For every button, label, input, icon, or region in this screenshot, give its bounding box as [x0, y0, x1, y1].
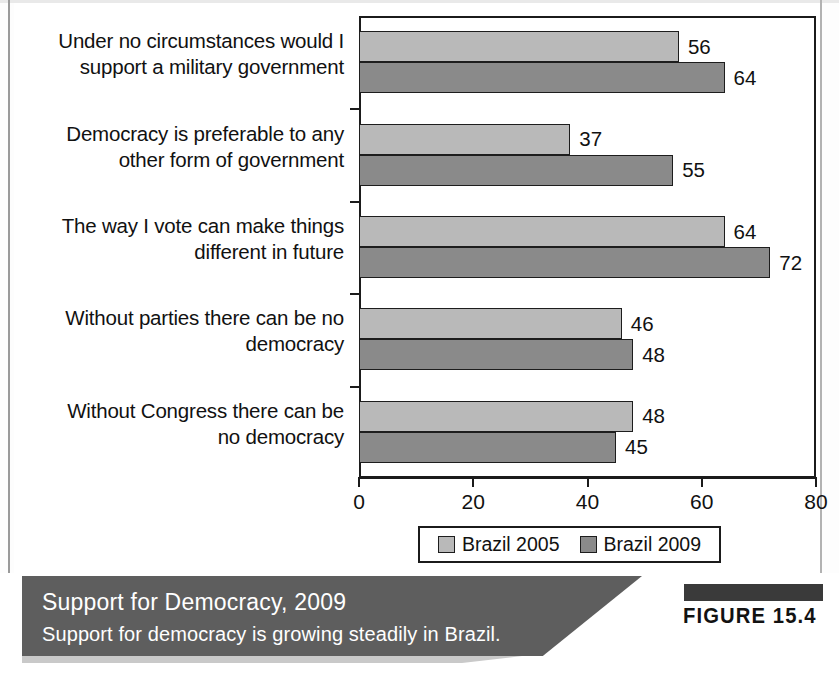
- category-label-line: different in future: [44, 239, 344, 265]
- chart-legend: Brazil 2005 Brazil 2009: [418, 526, 721, 563]
- legend-item-brazil-2005: Brazil 2005: [438, 533, 560, 556]
- category-label: The way I vote can make thingsdifferent …: [44, 213, 344, 265]
- figure-page: Under no circumstances would Isupport a …: [0, 0, 839, 676]
- bar-brazil-2005: [359, 216, 725, 247]
- bar-brazil-2005: [359, 124, 570, 155]
- category-label: Without Congress there can beno democrac…: [44, 398, 344, 450]
- bar-brazil-2009: [359, 432, 616, 463]
- bar-value-label: 48: [642, 406, 665, 426]
- legend-label-brazil-2005: Brazil 2005: [462, 533, 560, 556]
- caption-subtitle: Support for democracy is growing steadil…: [42, 623, 501, 646]
- figure-tag-label: FIGURE 15.4: [683, 603, 817, 629]
- figure-tag-bar: [684, 584, 823, 601]
- bar-value-label: 56: [688, 37, 711, 57]
- category-label-line: other form of government: [44, 147, 344, 173]
- bar-value-label: 64: [734, 68, 757, 88]
- bar-value-label: 37: [579, 129, 602, 149]
- bar-value-label: 64: [734, 222, 757, 242]
- x-axis-tick-label: 0: [353, 490, 365, 514]
- chart-figure-area: Under no circumstances would Isupport a …: [14, 3, 820, 573]
- legend-swatch-icon-brazil-2009: [580, 536, 597, 553]
- legend-swatch-icon-brazil-2005: [438, 536, 455, 553]
- x-axis-tick: [701, 477, 703, 487]
- bar-brazil-2009: [359, 339, 633, 370]
- legend-item-brazil-2009: Brazil 2009: [580, 533, 702, 556]
- x-axis-tick-label: 40: [576, 490, 599, 514]
- page-left-edge-line: [8, 0, 10, 578]
- figure-caption-area: Support for Democracy, 2009 Support for …: [0, 573, 839, 676]
- bar-brazil-2005: [359, 308, 622, 339]
- category-label-line: democracy: [44, 331, 344, 357]
- bar-value-label: 46: [631, 314, 654, 334]
- category-label: Democracy is preferable to anyother form…: [44, 121, 344, 173]
- x-axis-tick-label: 80: [804, 490, 827, 514]
- category-label-line: no democracy: [44, 424, 344, 450]
- x-axis-tick: [587, 477, 589, 487]
- category-label-line: Democracy is preferable to any: [44, 121, 344, 147]
- x-axis-tick-label: 60: [690, 490, 713, 514]
- category-label-line: Under no circumstances would I: [44, 28, 344, 54]
- x-axis-tick: [472, 477, 474, 487]
- bars-layer: 56643755647246484845: [359, 16, 816, 478]
- category-label-line: Without Congress there can be: [44, 398, 344, 424]
- x-axis-tick-label: 20: [462, 490, 485, 514]
- bar-brazil-2005: [359, 401, 633, 432]
- category-label: Under no circumstances would Isupport a …: [44, 28, 344, 80]
- category-label-line: The way I vote can make things: [44, 213, 344, 239]
- category-tick: [350, 293, 360, 295]
- category-tick: [350, 201, 360, 203]
- bar-value-label: 72: [779, 253, 802, 273]
- x-axis-tick: [358, 477, 360, 487]
- caption-title: Support for Democracy, 2009: [42, 589, 346, 616]
- category-label-line: Without parties there can be no: [44, 305, 344, 331]
- bar-value-label: 45: [625, 437, 648, 457]
- bar-brazil-2009: [359, 62, 725, 93]
- caption-band-shadow: [22, 656, 522, 663]
- bar-value-label: 55: [682, 160, 705, 180]
- category-label: Without parties there can be nodemocracy: [44, 305, 344, 357]
- bar-brazil-2009: [359, 247, 770, 278]
- bar-brazil-2005: [359, 31, 679, 62]
- bar-brazil-2009: [359, 155, 673, 186]
- bar-value-label: 48: [642, 345, 665, 365]
- category-label-line: support a military government: [44, 54, 344, 80]
- legend-label-brazil-2009: Brazil 2009: [604, 533, 702, 556]
- category-tick: [350, 386, 360, 388]
- category-tick: [350, 108, 360, 110]
- x-axis-tick: [815, 477, 817, 487]
